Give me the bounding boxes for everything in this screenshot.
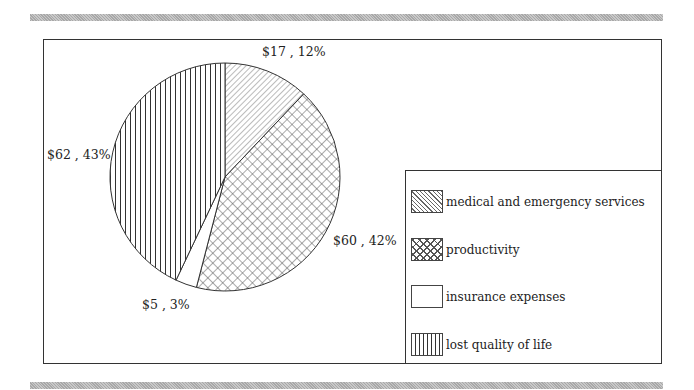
crosshatch-pattern-swatch-icon [411, 238, 443, 261]
legend-label: lost quality of life [446, 338, 552, 352]
diagonal-pattern-swatch-icon [411, 190, 443, 213]
chart-legend: medical and emergency services productiv… [405, 170, 662, 364]
legend-item-medical: medical and emergency services [411, 190, 645, 213]
legend-item-quality: lost quality of life [411, 333, 552, 356]
empty-pattern-swatch-icon [411, 285, 443, 308]
slice-label-insurance: $5 , 3% [142, 297, 190, 312]
legend-item-productivity: productivity [411, 238, 520, 261]
legend-item-insurance: insurance expenses [411, 285, 566, 308]
slice-label-quality: $62 , 43% [47, 147, 111, 162]
legend-label: productivity [446, 243, 520, 257]
vertical-pattern-swatch-icon [411, 333, 443, 356]
legend-label: insurance expenses [446, 290, 566, 304]
legend-label: medical and emergency services [446, 195, 645, 209]
slice-label-medical: $17 , 12% [262, 44, 326, 59]
slice-label-productivity: $60 , 42% [333, 233, 397, 248]
bottom-divider-bar [30, 382, 663, 389]
